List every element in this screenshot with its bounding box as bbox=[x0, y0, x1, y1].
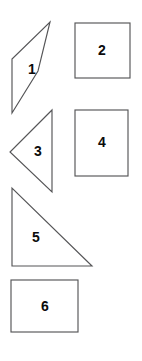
triangle-left-shape-3 bbox=[10, 110, 52, 192]
shape-group-3: 3 bbox=[10, 110, 52, 192]
shape-label-3: 3 bbox=[34, 143, 42, 159]
shape-label-1: 1 bbox=[28, 61, 36, 77]
geometric-shapes-figure: 1 2 3 4 5 6 bbox=[0, 0, 142, 361]
shape-group-2: 2 bbox=[75, 23, 130, 78]
shape-label-6: 6 bbox=[41, 298, 49, 314]
shape-group-5: 5 bbox=[12, 188, 92, 266]
triangle-right-shape-5 bbox=[12, 188, 92, 266]
shape-group-4: 4 bbox=[75, 110, 128, 176]
shape-label-2: 2 bbox=[98, 42, 106, 58]
shape-group-6: 6 bbox=[11, 280, 78, 332]
shape-label-5: 5 bbox=[32, 229, 40, 245]
shape-group-1: 1 bbox=[12, 22, 50, 113]
shape-label-4: 4 bbox=[98, 134, 106, 150]
shapes-canvas: 1 2 3 4 5 6 bbox=[0, 0, 142, 361]
